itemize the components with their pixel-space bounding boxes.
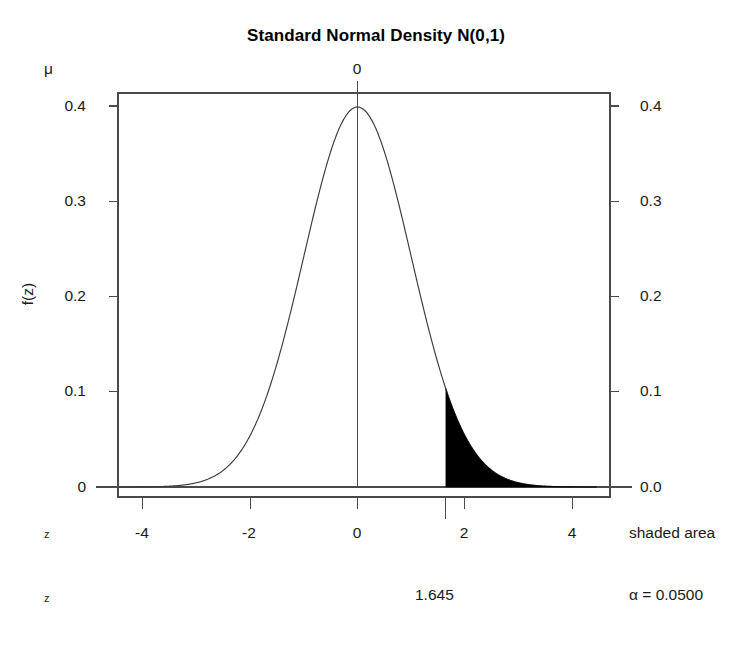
shaded-tail-region (446, 389, 597, 487)
normal-density-chart: Standard Normal Density N(0,1) μ 0 f(z) … (0, 0, 752, 649)
plot-area (0, 0, 752, 649)
plot-box (118, 93, 610, 497)
